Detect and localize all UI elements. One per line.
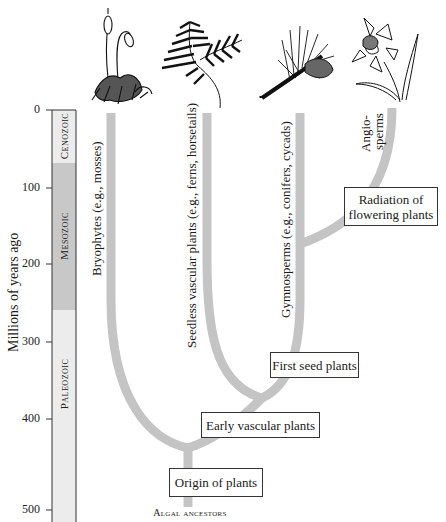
- event-radiation-line1: Radiation of: [359, 192, 424, 207]
- event-box-first-seed: First seed plants: [270, 352, 359, 378]
- root-label: Algal ancestors: [140, 507, 240, 518]
- tick-label-400: 400: [14, 411, 40, 426]
- era-label-paleozoic: Paleozoic: [58, 350, 70, 418]
- era-label-mesozoic: Mesozoic: [58, 206, 70, 266]
- branch-bryophytes: [111, 113, 188, 448]
- tick-label-0: 0: [14, 102, 40, 117]
- event-box-origin: Origin of plants: [169, 468, 263, 497]
- phylogeny-branches: [111, 108, 392, 507]
- conifer-icon: [262, 26, 334, 98]
- geologic-timeline: [46, 110, 76, 522]
- label-angiosperms-2: sperms: [371, 113, 387, 150]
- era-label-cenozoic: Cenozoic: [58, 106, 70, 166]
- event-box-radiation: Radiation of flowering plants: [344, 187, 438, 226]
- tick-label-300: 300: [14, 334, 40, 349]
- tick-label-100: 100: [14, 180, 40, 195]
- tick-label-500: 500: [14, 502, 40, 517]
- label-gymnosperms: Gymnosperms (e.g., conifers, cycads): [278, 121, 294, 318]
- label-seedless-vascular: Seedless vascular plants (e.g., ferns, h…: [184, 103, 200, 348]
- event-radiation-line2: flowering plants: [349, 207, 434, 222]
- moss-icon: [92, 8, 152, 104]
- label-bryophytes: Bryophytes (e.g., mosses): [89, 141, 105, 276]
- branch-seedless-vascular: [207, 113, 262, 398]
- event-box-early-vascular: Early vascular plants: [201, 412, 320, 438]
- fern-icon: [162, 22, 242, 108]
- tick-label-200: 200: [14, 256, 40, 271]
- flower-icon: [352, 18, 418, 102]
